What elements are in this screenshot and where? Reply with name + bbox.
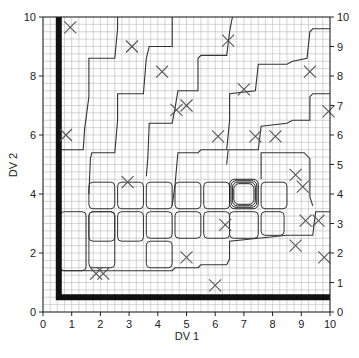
loop-contour [175,212,201,239]
y-tick-label-right: 0 [337,306,343,318]
x-tick-label: 3 [126,318,132,330]
x-tick-label: 7 [241,318,247,330]
loop-contour [175,182,201,209]
y-tick-label-left: 6 [30,129,36,141]
y-tick-label-right: 8 [337,70,343,82]
x-tick-label: 10 [324,318,336,330]
x-tick-label: 5 [183,318,189,330]
scatter-contour-chart: 0123456789100246810012345678910 DV 1 DV … [0,0,359,358]
x-marker [323,105,335,117]
loop-contour [89,212,115,268]
y-axis-title: DV 2 [7,153,19,177]
y-tick-label-right: 2 [337,247,343,259]
x-axis-title: DV 1 [175,330,199,342]
loop-contour [146,212,172,239]
y-tick-label-right: 7 [337,100,343,112]
loop-contour [118,182,144,209]
loop-contour [146,241,172,268]
data-markers [60,21,335,291]
x-tick-label: 8 [270,318,276,330]
y-tick-label-left: 10 [24,11,36,23]
y-tick-label-left: 8 [30,70,36,82]
y-tick-label-right: 9 [337,41,343,53]
y-tick-label-right: 5 [337,159,343,171]
y-tick-label-right: 1 [337,277,343,289]
x-tick-label: 6 [212,318,218,330]
y-tick-label-right: 4 [337,188,343,200]
x-tick-label: 9 [298,318,304,330]
y-tick-label-right: 6 [337,129,343,141]
y-tick-label-left: 4 [30,188,36,200]
y-tick-label-right: 10 [337,11,349,23]
step-contour-5 [227,94,330,165]
x-tick-label: 1 [69,318,75,330]
x-tick-label: 0 [40,318,46,330]
loop-contour [204,182,230,209]
x-tick-label: 2 [97,318,103,330]
x-tick-label: 4 [155,318,161,330]
loop-contour [60,212,86,271]
y-tick-label-right: 3 [337,218,343,230]
loop-contour [89,182,115,209]
y-tick-label-left: 0 [30,306,36,318]
loop-contour [146,182,172,209]
y-tick-label-left: 2 [30,247,36,259]
loop-contour [261,182,287,209]
